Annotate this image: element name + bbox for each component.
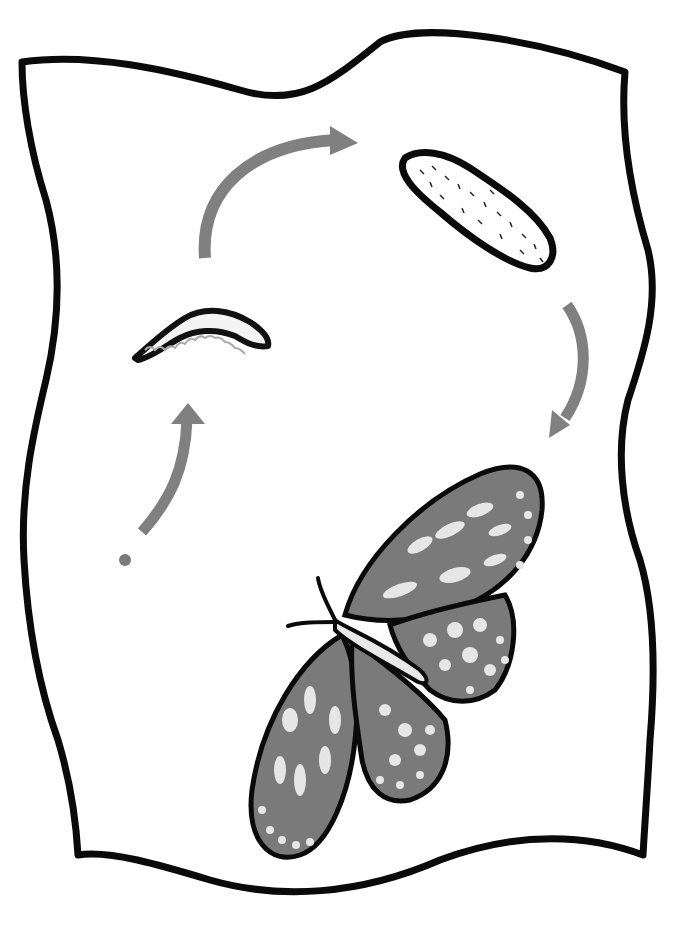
life-cycle-illustration: Butterfly life cycle <box>0 0 676 952</box>
egg-icon <box>119 554 131 566</box>
